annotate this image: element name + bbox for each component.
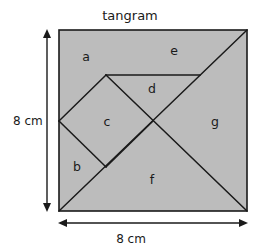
piece-label-c: c bbox=[104, 114, 111, 129]
tangram-diagram: tangram a b c d e f g 8 cm bbox=[0, 0, 261, 248]
piece-label-b: b bbox=[73, 159, 81, 174]
piece-label-a: a bbox=[82, 49, 90, 64]
piece-label-f: f bbox=[150, 172, 155, 187]
bottom-dimension-label: 8 cm bbox=[116, 232, 146, 246]
left-dimension-arrow bbox=[43, 29, 51, 212]
diagram-title: tangram bbox=[102, 8, 158, 23]
piece-label-d: d bbox=[148, 81, 156, 96]
bottom-dimension-arrow bbox=[58, 219, 248, 227]
piece-label-g: g bbox=[211, 114, 219, 129]
tangram-figure-container: tangram a b c d e f g 8 cm bbox=[0, 0, 261, 248]
piece-label-e: e bbox=[170, 43, 178, 58]
left-dimension-label: 8 cm bbox=[13, 114, 43, 128]
